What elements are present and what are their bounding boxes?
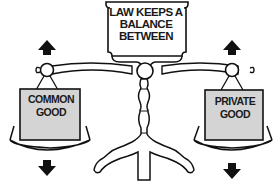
title-line-1: LAW KEEPS A [108, 6, 184, 18]
center-column [94, 79, 194, 180]
left-box-line-1: COMMON [22, 93, 80, 106]
left-arrow-up-icon [38, 40, 56, 55]
left-pivot [41, 64, 54, 77]
right-box-label: PRIVATE GOOD [207, 95, 263, 121]
left-box-line-2: GOOD [22, 106, 80, 119]
left-box-label: COMMON GOOD [22, 93, 80, 119]
right-hanger [221, 76, 243, 90]
center-pivot [137, 63, 153, 79]
right-pivot [226, 64, 239, 77]
left-hanger [36, 76, 58, 90]
title-line-2: BALANCE [108, 18, 184, 30]
right-arrow-up-icon [223, 40, 241, 55]
title-text: LAW KEEPS A BALANCE BETWEEN [108, 6, 184, 42]
right-box-line-2: GOOD [207, 108, 263, 121]
title-line-3: BETWEEN [108, 30, 184, 42]
right-box-line-1: PRIVATE [207, 95, 263, 108]
left-arrow-down-icon [38, 160, 56, 176]
right-arrow-down-icon [223, 163, 241, 179]
